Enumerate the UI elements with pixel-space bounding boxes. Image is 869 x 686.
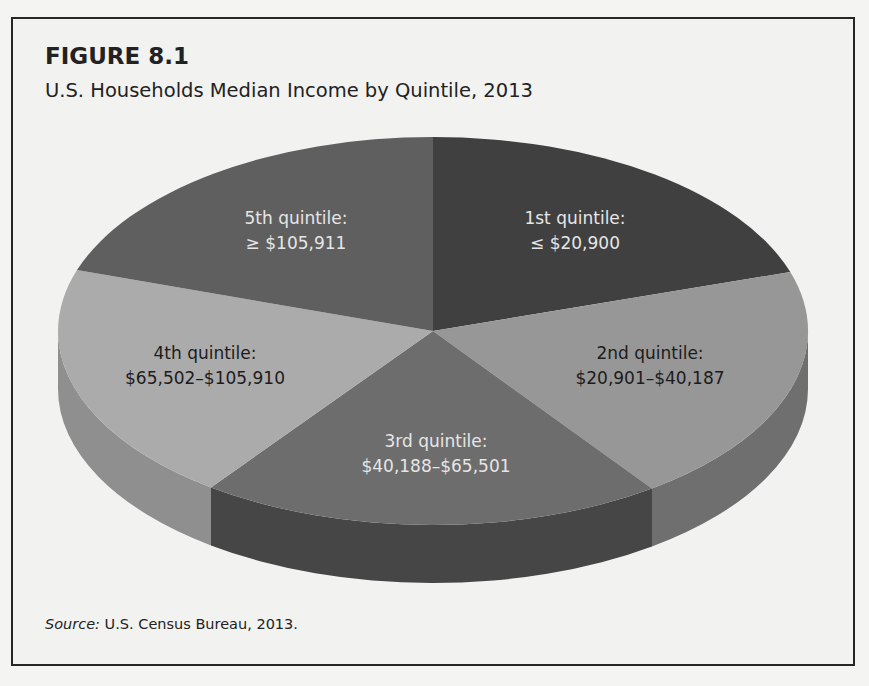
slice-q2-label-line1: 2nd quintile: [596,343,703,363]
slice-q1-label-line1: 1st quintile: [524,208,625,228]
slice-q1-label-line2: ≤ $20,900 [530,233,620,253]
slice-q4-label-line1: 4th quintile: [153,343,256,363]
slice-q5-label-line1: 5th quintile: [244,208,347,228]
slice-q3-label-line2: $40,188–$65,501 [361,456,510,476]
slice-q4-label-line2: $65,502–$105,910 [125,368,285,388]
pie-chart: 5th quintile: ≥ $105,911 1st quintile: ≤… [0,0,869,686]
slice-q5-label-line2: ≥ $105,911 [246,233,347,253]
slice-q2-label-line2: $20,901–$40,187 [575,368,724,388]
slice-q3-label-line1: 3rd quintile: [384,431,487,451]
